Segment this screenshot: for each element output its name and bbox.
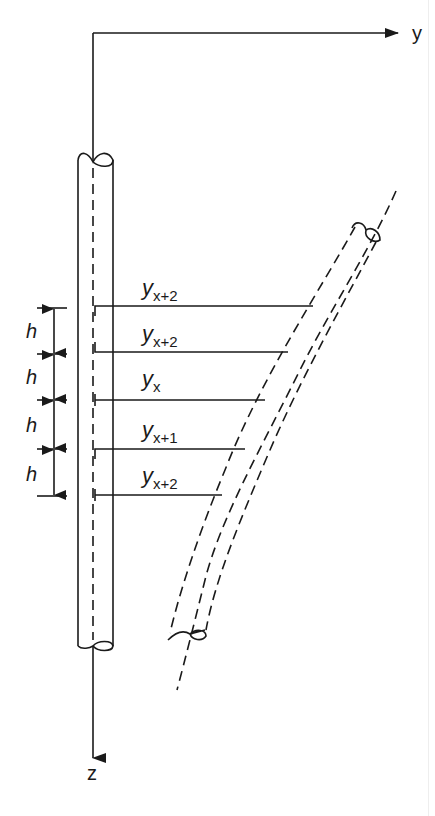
- spacing-dimensions: h h h h: [26, 308, 67, 496]
- station-label-4: yx+1: [140, 417, 178, 446]
- deflected-pile: [168, 191, 396, 690]
- station-label-3: yx: [140, 366, 161, 395]
- spacing-label-1: h: [26, 320, 37, 342]
- spacing-label-3: h: [26, 414, 37, 436]
- z-axis: z: [87, 33, 97, 784]
- station-labels: yx+2 yx+2 yx yx+1 yx+2: [140, 275, 178, 492]
- spacing-label-2: h: [26, 366, 37, 388]
- station-lines: [95, 306, 313, 501]
- spacing-label-4: h: [26, 463, 37, 485]
- station-label-2: yx+2: [140, 321, 178, 350]
- pile-deflection-diagram: y z h: [0, 0, 435, 816]
- page-edge: [428, 0, 429, 816]
- station-label-5: yx+2: [140, 463, 178, 492]
- y-axis: y: [93, 22, 422, 44]
- z-axis-label: z: [87, 762, 97, 784]
- station-label-1: yx+2: [140, 275, 178, 304]
- y-axis-label: y: [412, 22, 422, 44]
- diagram-canvas: y z h: [0, 0, 435, 816]
